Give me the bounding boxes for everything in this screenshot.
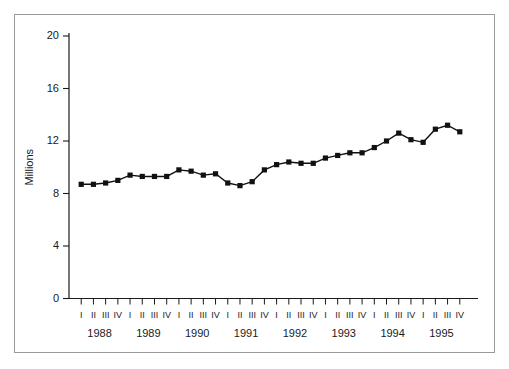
data-point-marker [372, 145, 377, 150]
x-quarter-label: I [80, 310, 83, 320]
x-year-label: 1989 [136, 327, 160, 339]
data-point-marker [201, 173, 206, 178]
y-tick-label-20: 20 [47, 29, 59, 41]
x-quarter-label: III [102, 310, 110, 320]
x-year-label: 1993 [332, 327, 356, 339]
x-quarter-label: II [140, 310, 145, 320]
data-point-marker [384, 138, 389, 143]
x-quarter-label: II [189, 310, 194, 320]
data-series-line [79, 123, 463, 189]
x-year-label: 1990 [185, 327, 209, 339]
x-year-label: 1988 [87, 327, 111, 339]
x-quarter-label: II [384, 310, 389, 320]
data-point-marker [445, 123, 450, 128]
data-point-marker [421, 140, 426, 145]
data-point-marker [176, 167, 181, 172]
x-year-labels: 19881989199019911992199319941995 [87, 327, 453, 339]
data-point-marker [225, 180, 230, 185]
x-year-label: 1995 [429, 327, 453, 339]
y-tick-label-16: 16 [47, 82, 59, 94]
series-polyline [81, 125, 460, 185]
data-point-marker [127, 173, 132, 178]
x-quarter-label: II [237, 310, 242, 320]
data-point-marker [359, 150, 364, 155]
y-axis: 048121620 [47, 29, 69, 304]
data-point-marker [396, 131, 401, 136]
x-year-label: 1992 [283, 327, 307, 339]
data-point-marker [335, 153, 340, 158]
x-quarter-label: IV [211, 310, 220, 320]
x-quarter-label: I [226, 310, 229, 320]
x-quarter-label: I [275, 310, 278, 320]
x-quarter-label: III [151, 310, 159, 320]
x-quarter-label: III [346, 310, 354, 320]
chart-canvas: 048121620 IIIIIIIVIIIIIIIVIIIIIIIVIIIIII… [15, 15, 496, 354]
x-quarter-label: IV [114, 310, 123, 320]
y-tick-label-0: 0 [53, 292, 59, 304]
data-point-marker [152, 174, 157, 179]
data-point-marker [213, 171, 218, 176]
x-quarter-label: III [248, 310, 256, 320]
x-year-label: 1994 [380, 327, 404, 339]
data-point-marker [408, 137, 413, 142]
x-quarter-label: IV [358, 310, 367, 320]
x-quarter-label: I [129, 310, 132, 320]
x-quarter-label: IV [162, 310, 171, 320]
x-quarter-label: I [422, 310, 425, 320]
x-quarter-label: II [335, 310, 340, 320]
data-point-marker [79, 182, 84, 187]
data-point-marker [237, 183, 242, 188]
data-point-marker [323, 155, 328, 160]
data-point-marker [91, 182, 96, 187]
x-quarter-labels: IIIIIIIVIIIIIIIVIIIIIIIVIIIIIIIVIIIIIIIV… [80, 310, 464, 320]
data-point-marker [286, 159, 291, 164]
x-quarter-label: IV [407, 310, 416, 320]
y-tick-label-12: 12 [47, 134, 59, 146]
y-axis-title: Millions [23, 148, 35, 185]
x-quarter-label: I [373, 310, 376, 320]
x-quarter-label: IV [309, 310, 318, 320]
data-point-marker [115, 178, 120, 183]
x-quarter-label: I [324, 310, 327, 320]
data-point-marker [298, 161, 303, 166]
x-quarter-label: III [297, 310, 305, 320]
x-axis [69, 299, 478, 305]
data-point-marker [347, 150, 352, 155]
y-axis-label: Millions [23, 148, 35, 185]
data-point-marker [189, 169, 194, 174]
data-point-marker [250, 179, 255, 184]
y-tick-label-8: 8 [53, 187, 59, 199]
x-quarter-label: IV [456, 310, 465, 320]
x-quarter-label: IV [260, 310, 269, 320]
data-point-marker [433, 127, 438, 132]
x-quarter-label: II [286, 310, 291, 320]
data-point-marker [262, 167, 267, 172]
figure-frame: 048121620 IIIIIIIVIIIIIIIVIIIIIIIVIIIIII… [14, 14, 495, 353]
x-quarter-label: III [444, 310, 452, 320]
data-point-marker [140, 174, 145, 179]
x-quarter-label: III [200, 310, 208, 320]
data-point-marker [164, 174, 169, 179]
data-point-marker [103, 180, 108, 185]
x-year-label: 1991 [234, 327, 258, 339]
y-tick-label-4: 4 [53, 239, 59, 251]
data-point-marker [457, 129, 462, 134]
x-quarter-label: II [91, 310, 96, 320]
x-quarter-label: I [178, 310, 181, 320]
data-point-marker [274, 162, 279, 167]
x-quarter-label: II [433, 310, 438, 320]
data-point-marker [311, 161, 316, 166]
x-quarter-label: III [395, 310, 403, 320]
